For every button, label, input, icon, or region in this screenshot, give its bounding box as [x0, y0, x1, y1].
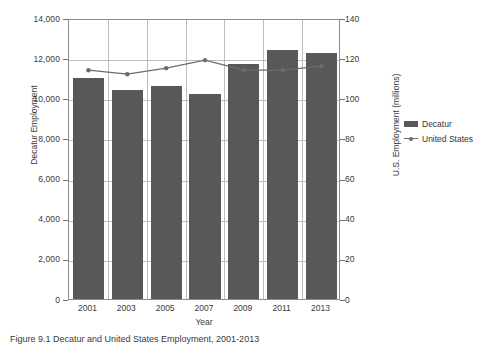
y-axis-left-tick-label: 10,000 [4, 94, 60, 104]
line-marker-2003 [125, 72, 129, 76]
y-axis-right-tick-label: 40 [345, 214, 375, 224]
line-marker-2001 [86, 68, 90, 72]
y-axis-left-tick-mark [63, 59, 68, 60]
legend-item-decatur[interactable]: Decatur [404, 116, 473, 131]
y-axis-right-tick-mark [340, 99, 345, 100]
y-axis-right-tick-mark [340, 19, 345, 20]
x-axis-tick-label-2005: 2005 [146, 303, 184, 313]
y-axis-left-tick-label: 8,000 [4, 134, 60, 144]
y-axis-left-tick-label: 6,000 [4, 174, 60, 184]
y-axis-left-tick-label: 2,000 [4, 254, 60, 264]
line-marker-2013 [319, 64, 323, 68]
y-axis-right-tick-mark [340, 220, 345, 221]
y-axis-left-tick-label: 4,000 [4, 214, 60, 224]
y-axis-left-tick-mark [63, 260, 68, 261]
line-marker-2011 [281, 68, 285, 72]
figure-container: Decatur Employment U.S. Employment (mill… [0, 0, 490, 344]
line-marker-2007 [203, 58, 207, 62]
y-axis-right-tick-mark [340, 139, 345, 140]
x-axis-tick-label-2001: 2001 [68, 303, 106, 313]
x-axis-title: Year [68, 317, 340, 327]
y-axis-left-tick-mark [63, 220, 68, 221]
y-axis-right-tick-mark [340, 180, 345, 181]
x-axis-tick-label-2011: 2011 [263, 303, 301, 313]
x-axis-tick-label-2003: 2003 [107, 303, 145, 313]
y-axis-right-title: U.S. Employment (millions) [391, 45, 401, 205]
bar-swatch-icon [404, 121, 418, 127]
y-axis-left-tick-mark [63, 300, 68, 301]
y-axis-left-tick-mark [63, 180, 68, 181]
y-axis-right-tick-label: 100 [345, 94, 375, 104]
y-axis-left-tick-mark [63, 139, 68, 140]
x-axis-tick-label-2007: 2007 [185, 303, 223, 313]
y-axis-right-tick-label: 20 [345, 254, 375, 264]
y-axis-right-tick-label: 60 [345, 174, 375, 184]
y-axis-right-tick-label: 120 [345, 54, 375, 64]
y-axis-right-tick-mark [340, 300, 345, 301]
line-marker-icon [404, 135, 418, 142]
line-marker-2009 [242, 68, 246, 72]
y-axis-right-tick-label: 0 [345, 295, 375, 305]
legend-label-united-states: United States [422, 134, 473, 144]
x-axis-tick-label-2013: 2013 [302, 303, 340, 313]
legend-label-decatur: Decatur [422, 119, 452, 129]
line-series-layer [69, 20, 341, 301]
line-marker-2005 [164, 66, 168, 70]
y-axis-right-tick-mark [340, 260, 345, 261]
y-axis-left-tick-mark [63, 19, 68, 20]
plot-area [68, 19, 340, 300]
y-axis-left-tick-label: 12,000 [4, 54, 60, 64]
y-axis-right-tick-label: 140 [345, 14, 375, 24]
figure-caption: Figure 9.1 Decatur and United States Emp… [10, 334, 259, 344]
legend: Decatur United States [404, 116, 473, 146]
y-axis-left-tick-label: 14,000 [4, 14, 60, 24]
y-axis-right-tick-label: 80 [345, 134, 375, 144]
y-axis-right-tick-mark [340, 59, 345, 60]
legend-item-united-states[interactable]: United States [404, 131, 473, 146]
y-axis-left-tick-label: 0 [4, 295, 60, 305]
y-axis-left-tick-mark [63, 99, 68, 100]
x-axis-tick-label-2009: 2009 [224, 303, 262, 313]
